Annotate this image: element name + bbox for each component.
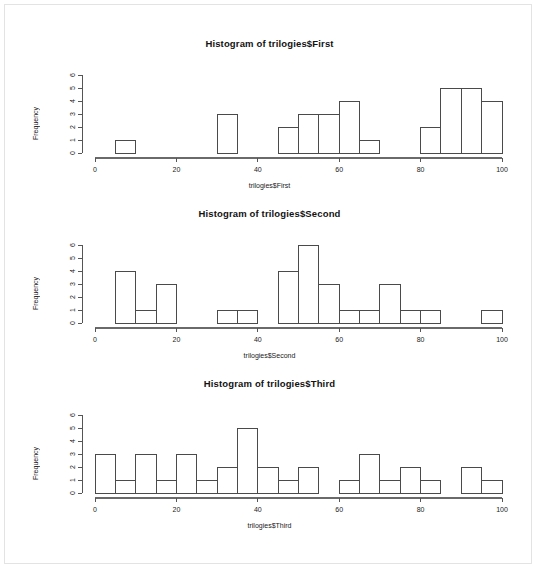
histogram-bar — [360, 140, 380, 153]
histogram-bar — [278, 127, 298, 153]
x-tick-label: 80 — [417, 506, 425, 513]
histogram-bar — [360, 310, 380, 323]
histogram-bar — [237, 428, 257, 493]
histogram-bar — [299, 245, 319, 323]
histogram-bar — [421, 480, 441, 493]
y-tick-label: 2 — [69, 295, 76, 299]
histogram-bar — [400, 467, 420, 493]
y-tick-label: 0 — [69, 491, 76, 495]
y-tick-label: 1 — [69, 138, 76, 142]
histogram-plot-area: 0123456020406080100 — [0, 370, 539, 556]
histogram-page: Histogram of trilogies$First Frequency t… — [0, 0, 539, 572]
histogram-bar — [380, 480, 400, 493]
y-tick-label: 4 — [69, 269, 76, 273]
histogram-bar — [156, 480, 176, 493]
y-tick-label: 3 — [69, 452, 76, 456]
x-tick-label: 40 — [254, 336, 262, 343]
x-tick-label: 80 — [417, 336, 425, 343]
histogram-bar — [461, 88, 481, 153]
histogram-bar — [400, 310, 420, 323]
histogram-bar — [115, 271, 135, 323]
x-tick-label: 0 — [93, 336, 97, 343]
x-tick-label: 100 — [496, 506, 508, 513]
histogram-bar — [136, 454, 156, 493]
y-tick-label: 5 — [69, 256, 76, 260]
y-tick-label: 1 — [69, 308, 76, 312]
y-tick-label: 5 — [69, 426, 76, 430]
histogram-bar — [360, 454, 380, 493]
y-tick-label: 2 — [69, 125, 76, 129]
x-tick-label: 80 — [417, 166, 425, 173]
histogram-plot-area: 0123456020406080100 — [0, 30, 539, 216]
x-tick-label: 20 — [173, 336, 181, 343]
y-tick-label: 4 — [69, 439, 76, 443]
y-tick-label: 6 — [69, 243, 76, 247]
histogram-bar — [156, 284, 176, 323]
y-tick-label: 2 — [69, 465, 76, 469]
histogram-bar — [461, 467, 481, 493]
histogram-bar — [319, 114, 339, 153]
histogram-panel-third: Histogram of trilogies$Third Frequency t… — [0, 370, 539, 556]
x-tick-label: 0 — [93, 166, 97, 173]
histogram-bar — [278, 271, 298, 323]
histogram-bar — [339, 310, 359, 323]
histogram-bar — [237, 310, 257, 323]
y-tick-label: 3 — [69, 282, 76, 286]
y-tick-label: 0 — [69, 321, 76, 325]
histogram-bar — [482, 480, 502, 493]
histogram-bar — [176, 454, 196, 493]
histogram-bar — [115, 480, 135, 493]
histogram-bar — [339, 480, 359, 493]
x-tick-label: 100 — [496, 166, 508, 173]
histogram-bar — [258, 467, 278, 493]
histogram-bar — [197, 480, 217, 493]
x-tick-label: 100 — [496, 336, 508, 343]
histogram-panel-second: Histogram of trilogies$Second Frequency … — [0, 200, 539, 386]
y-tick-label: 3 — [69, 112, 76, 116]
y-tick-label: 6 — [69, 413, 76, 417]
histogram-bar — [95, 454, 115, 493]
histogram-bar — [217, 467, 237, 493]
histogram-panel-first: Histogram of trilogies$First Frequency t… — [0, 30, 539, 216]
histogram-bar — [421, 127, 441, 153]
histogram-bar — [217, 114, 237, 153]
x-tick-label: 40 — [254, 506, 262, 513]
histogram-bar — [380, 284, 400, 323]
histogram-bar — [482, 101, 502, 153]
x-tick-label: 0 — [93, 506, 97, 513]
histogram-bar — [441, 88, 461, 153]
histogram-bar — [115, 140, 135, 153]
x-tick-label: 40 — [254, 166, 262, 173]
histogram-bar — [299, 114, 319, 153]
histogram-plot-area: 0123456020406080100 — [0, 200, 539, 386]
histogram-bar — [217, 310, 237, 323]
y-tick-label: 5 — [69, 86, 76, 90]
histogram-bar — [319, 284, 339, 323]
histogram-bar — [299, 467, 319, 493]
y-tick-label: 1 — [69, 478, 76, 482]
histogram-bar — [339, 101, 359, 153]
histogram-bar — [421, 310, 441, 323]
y-tick-label: 4 — [69, 99, 76, 103]
y-tick-label: 6 — [69, 73, 76, 77]
histogram-bar — [278, 480, 298, 493]
x-tick-label: 60 — [335, 166, 343, 173]
x-tick-label: 60 — [335, 336, 343, 343]
x-tick-label: 60 — [335, 506, 343, 513]
x-tick-label: 20 — [173, 166, 181, 173]
y-tick-label: 0 — [69, 151, 76, 155]
histogram-bar — [136, 310, 156, 323]
histogram-bar — [482, 310, 502, 323]
x-tick-label: 20 — [173, 506, 181, 513]
